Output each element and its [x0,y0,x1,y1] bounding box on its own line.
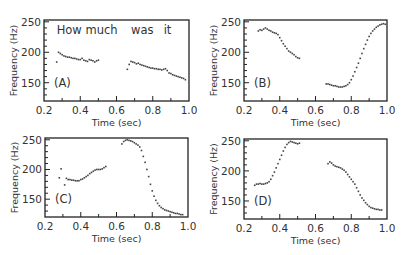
data-point [153,195,155,197]
data-point [168,210,170,212]
data-point [151,190,153,192]
data-point [132,141,134,143]
data-point [367,39,369,41]
data-point [172,74,174,76]
data-point [368,36,370,38]
data-point [349,82,351,84]
data-point [356,187,358,189]
data-point [325,83,327,85]
data-point [85,60,87,62]
data-point [134,142,136,144]
data-point [288,50,290,52]
data-point [91,172,93,174]
data-point [268,181,270,183]
y-tick-label: 200 [21,46,41,58]
panel-d: 1502002500.20.40.60.81.0Time (sec)Freque… [208,135,395,246]
data-point [143,65,145,67]
panel-a: 1502002500.20.40.60.81.0Time (sec)Freque… [8,16,197,128]
data-point [343,169,345,171]
data-point [270,179,272,181]
data-point [82,178,84,180]
data-point [270,30,272,32]
data-point [343,86,345,88]
x-tick-label: 0.4 [72,220,89,232]
data-point [63,55,65,57]
x-axis-label: Time (sec) [91,117,142,128]
data-point [80,179,82,181]
data-point [383,23,385,25]
data-point [286,48,288,50]
data-point [137,144,139,146]
data-point [147,66,149,68]
x-tick-label: 1.0 [180,220,197,232]
data-point [74,58,76,60]
x-tick-label: 0.2 [236,104,253,116]
data-point [183,78,185,80]
data-point [281,40,283,42]
data-point [150,67,152,69]
data-point [60,53,62,55]
data-point [272,31,274,33]
data-point [372,207,374,209]
data-point [381,209,383,211]
data-point [258,30,260,32]
data-point [178,213,180,215]
data-point [374,28,376,30]
data-point [76,58,78,60]
data-point [59,177,61,179]
data-point [166,70,168,72]
data-point [64,184,66,186]
x-tick-label: 0.2 [236,222,253,234]
data-point [174,75,176,77]
data-point [72,58,74,60]
data-point [354,183,356,185]
data-point [180,214,182,216]
data-point [266,28,268,30]
data-point [345,85,347,87]
data-point [349,176,351,178]
data-point [92,60,94,62]
data-point [70,57,72,59]
data-point [363,200,365,202]
x-tick-label: 0.6 [307,104,324,116]
data-point [279,37,281,39]
data-point [125,140,127,142]
data-point [58,51,60,53]
data-point [145,65,147,67]
data-point [176,213,178,215]
panel-label: (D) [254,194,272,208]
data-point [329,161,331,163]
data-point [92,170,94,172]
data-point [295,142,297,144]
data-point [261,183,263,185]
data-point [170,73,172,75]
panel-label: (C) [55,192,72,206]
data-point [79,59,81,61]
data-point [185,79,187,81]
data-point [61,54,63,56]
data-point [148,67,150,69]
x-tick-label: 1.0 [379,222,396,234]
data-point [342,86,344,88]
x-tick-label: 1.0 [379,104,396,116]
data-point [283,43,285,45]
data-point [132,61,134,63]
data-point [297,57,299,59]
data-point [377,25,379,27]
data-point [60,168,62,170]
data-point [127,69,129,71]
data-point [261,30,263,32]
data-point [171,211,173,213]
data-point [176,75,178,77]
data-point [381,23,383,25]
data-point [156,68,158,70]
data-point [352,75,354,77]
data-point [370,33,372,35]
data-point [293,54,295,56]
data-point [263,28,265,30]
y-axis-label: Frequency (Hz) [8,25,19,97]
data-point [94,169,96,171]
y-tick-label: 150 [22,193,42,205]
data-point [356,67,358,69]
data-point [258,183,260,185]
